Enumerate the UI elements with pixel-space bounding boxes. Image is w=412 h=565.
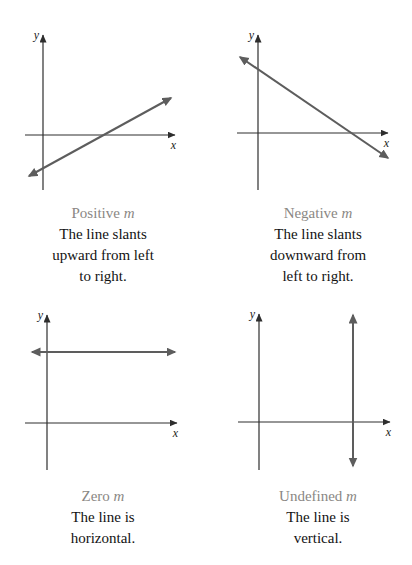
x-axis-label: x bbox=[383, 136, 390, 150]
negative-slope-graph: y x bbox=[206, 0, 412, 202]
panel-caption: Zero m The line is horizontal. bbox=[0, 486, 206, 549]
panel-undefined-slope: y x Undefined m The line is vertical. bbox=[206, 283, 412, 565]
y-axis-label: y bbox=[249, 307, 256, 321]
slope-variable: m bbox=[114, 488, 125, 504]
caption-title: Undefined m bbox=[215, 486, 412, 507]
caption-line: upward from left bbox=[0, 245, 206, 266]
caption-line: The line is bbox=[0, 507, 206, 528]
caption-line: The line is bbox=[215, 507, 412, 528]
caption-line: The line slants bbox=[0, 224, 206, 245]
caption-title-text: Negative bbox=[284, 205, 338, 221]
slope-variable: m bbox=[342, 205, 353, 221]
undefined-slope-graph: y x bbox=[206, 283, 412, 485]
x-axis-label: x bbox=[172, 426, 179, 440]
negative-slope-line bbox=[240, 57, 388, 158]
slope-variable: m bbox=[124, 205, 135, 221]
caption-line: The line slants bbox=[215, 224, 412, 245]
y-axis-label: y bbox=[248, 28, 255, 42]
positive-slope-line bbox=[29, 98, 171, 176]
caption-title-text: Positive bbox=[72, 205, 120, 221]
y-axis-label: y bbox=[37, 308, 44, 322]
caption-title: Positive m bbox=[0, 203, 206, 224]
caption-line: downward from bbox=[215, 245, 412, 266]
x-axis-label: x bbox=[385, 425, 392, 439]
panel-negative-slope: y x Negative m The line slants downward … bbox=[206, 0, 412, 283]
panel-zero-slope: y x Zero m The line is horizontal. bbox=[0, 283, 206, 565]
caption-title: Negative m bbox=[215, 203, 412, 224]
panel-caption: Undefined m The line is vertical. bbox=[215, 486, 412, 549]
caption-title-text: Zero bbox=[82, 488, 110, 504]
caption-line: horizontal. bbox=[0, 528, 206, 549]
zero-slope-graph: y x bbox=[0, 283, 206, 485]
slope-types-figure: y x Positive m The line slants upward fr… bbox=[0, 0, 412, 565]
caption-title-text: Undefined bbox=[279, 488, 342, 504]
caption-title: Zero m bbox=[0, 486, 206, 507]
caption-line: vertical. bbox=[215, 528, 412, 549]
y-axis-label: y bbox=[33, 28, 40, 42]
panel-caption: Positive m The line slants upward from l… bbox=[0, 203, 206, 287]
slope-variable: m bbox=[346, 488, 357, 504]
panel-caption: Negative m The line slants downward from… bbox=[215, 203, 412, 287]
positive-slope-graph: y x bbox=[0, 0, 206, 202]
panel-positive-slope: y x Positive m The line slants upward fr… bbox=[0, 0, 206, 283]
x-axis-label: x bbox=[170, 138, 177, 152]
